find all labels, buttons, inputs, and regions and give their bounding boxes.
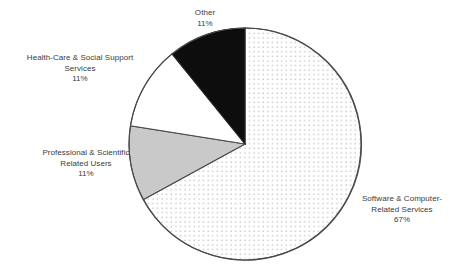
pie-chart-svg xyxy=(0,0,461,273)
pie-label-software-related-services: Software & Computer- Related Services 67… xyxy=(344,194,460,226)
pie-label-other: Other 11% xyxy=(160,8,250,29)
pie-label-health-line2: Services xyxy=(2,64,158,75)
pie-label-software-line1: Software & Computer- xyxy=(344,194,460,205)
pie-label-other-percent: 11% xyxy=(160,19,250,30)
pie-label-health-care-social-support: Health-Care & Social Support Services 11… xyxy=(2,53,158,85)
pie-label-professional-line1: Professional & Scientific xyxy=(12,148,160,159)
pie-chart-page: Other 11% Health-Care & Social Support S… xyxy=(0,0,461,273)
pie-label-health-line1: Health-Care & Social Support xyxy=(2,53,158,64)
pie-label-professional-scientific-users: Professional & Scientific Related Users … xyxy=(12,148,160,180)
pie-label-other-line1: Other xyxy=(160,8,250,19)
pie-label-software-line2: Related Services xyxy=(344,205,460,216)
pie-label-software-percent: 67% xyxy=(344,215,460,226)
pie-chart-figure: Other 11% Health-Care & Social Support S… xyxy=(0,0,461,273)
pie-label-professional-line2: Related Users xyxy=(12,159,160,170)
pie-label-health-percent: 11% xyxy=(2,74,158,85)
pie-label-professional-percent: 11% xyxy=(12,169,160,180)
